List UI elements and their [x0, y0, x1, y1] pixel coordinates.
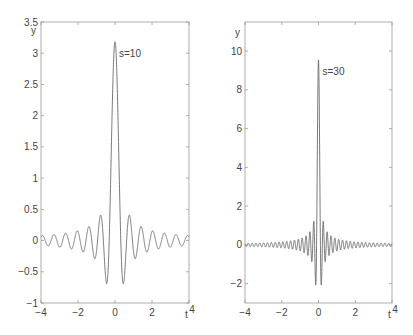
y-tick-label: 1.5 [24, 141, 38, 152]
x-axis-label: t [185, 309, 188, 320]
y-tick-label: 4 [236, 162, 242, 173]
sinc-curve [245, 60, 392, 285]
plot-s30: −4−2024−20246810 y t s=30 [231, 22, 399, 320]
ticks [41, 22, 189, 303]
y-tick-label: 0 [236, 239, 242, 250]
y-tick-label: 2 [32, 110, 38, 121]
x-tick-label: 2 [149, 307, 155, 318]
y-tick-label: −2 [231, 278, 243, 289]
x-tick-label: 4 [392, 304, 398, 315]
y-tick-label: 3 [32, 48, 38, 59]
y-axis-label: y [235, 27, 240, 38]
x-tick-label: −4 [35, 307, 47, 318]
x-tick-label: 0 [316, 307, 322, 318]
annotation-label: s=10 [119, 48, 141, 59]
x-tick-label: −4 [239, 307, 251, 318]
plot-s10: −4−2024−1−0.500.511.522.533.5 y t s=10 [18, 17, 195, 321]
y-tick-label: −1 [27, 298, 39, 309]
x-axis-label: t [388, 309, 391, 320]
sinc-curve [41, 42, 189, 284]
figure: −4−2024−1−0.500.511.522.533.5 y t s=10 −… [0, 0, 413, 335]
tick-labels: −4−2024−20246810 [231, 46, 399, 318]
y-tick-label: 2.5 [24, 79, 38, 90]
y-axis-label: y [31, 25, 36, 36]
axes-frame [41, 22, 189, 303]
x-tick-label: 0 [112, 307, 118, 318]
y-tick-label: 0.5 [24, 204, 38, 215]
x-tick-label: −2 [276, 307, 288, 318]
y-tick-label: 1 [32, 173, 38, 184]
y-tick-label: 8 [236, 84, 242, 95]
y-tick-label: 6 [236, 123, 242, 134]
y-tick-label: 0 [32, 235, 38, 246]
tick-labels: −4−2024−1−0.500.511.522.533.5 [18, 17, 195, 319]
y-tick-label: 10 [231, 46, 243, 57]
y-tick-label: 2 [236, 201, 242, 212]
x-tick-label: 2 [352, 307, 358, 318]
annotation-label: s=30 [323, 66, 345, 77]
x-tick-label: 4 [189, 304, 195, 315]
x-tick-label: −2 [72, 307, 84, 318]
y-tick-label: −0.5 [18, 266, 38, 277]
